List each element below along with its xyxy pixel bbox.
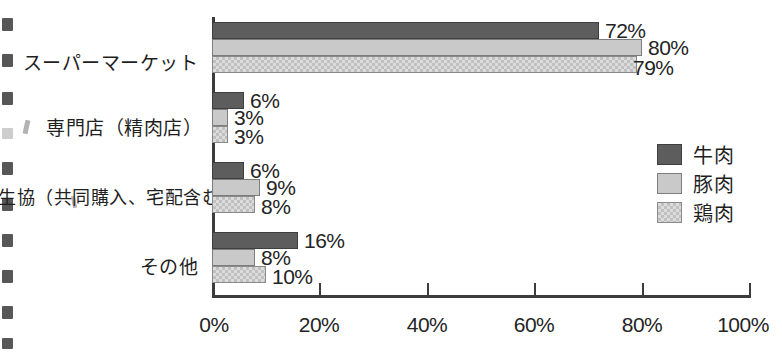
pork-swatch-icon xyxy=(657,173,682,194)
bar-coop-pork xyxy=(212,179,260,196)
x-axis-tick xyxy=(212,283,214,296)
x-axis-tick-label-40: 40% xyxy=(407,313,448,337)
bar-value-specialty-pork: 3% xyxy=(234,109,263,126)
x-axis-tick xyxy=(319,283,321,296)
bar-supermarket-chicken xyxy=(212,56,637,73)
legend-label-pork: 豚肉 xyxy=(693,169,734,198)
chart-legend: 牛肉 豚肉 鶏肉 xyxy=(657,140,734,227)
bar-supermarket-beef xyxy=(212,22,599,39)
x-axis-tick xyxy=(534,283,536,296)
bar-value-other-chicken: 10% xyxy=(272,268,313,285)
bar-other-chicken xyxy=(212,266,266,283)
bar-coop-chicken xyxy=(212,196,255,213)
bar-value-supermarket-chicken: 79% xyxy=(633,59,674,76)
x-axis-tick xyxy=(749,283,751,296)
x-axis-tick xyxy=(427,283,429,296)
bar-specialty-pork xyxy=(212,109,228,126)
category-label-specialty-store: 専門店（精肉店） xyxy=(0,113,206,140)
category-label-other: その他 xyxy=(0,252,206,279)
chart-page: スーパーマーケット 専門店（精肉店） 生協（共同購入、宅配含む） その他 0% … xyxy=(0,0,782,355)
legend-item-pork: 豚肉 xyxy=(657,169,734,198)
legend-item-chicken: 鶏肉 xyxy=(657,198,734,227)
bar-value-coop-pork: 9% xyxy=(266,179,295,196)
legend-item-beef: 牛肉 xyxy=(657,140,734,169)
category-label-supermarket: スーパーマーケット xyxy=(0,48,206,75)
legend-label-beef: 牛肉 xyxy=(693,140,734,169)
category-axis-labels: スーパーマーケット 専門店（精肉店） 生協（共同購入、宅配含む） その他 xyxy=(0,0,206,355)
x-axis-tick-label-20: 20% xyxy=(299,313,340,337)
x-axis-tick-label-80: 80% xyxy=(622,313,663,337)
bar-coop-beef xyxy=(212,162,244,179)
x-axis-line xyxy=(212,295,751,298)
bar-value-other-beef: 16% xyxy=(304,232,345,249)
chicken-swatch-icon xyxy=(657,202,682,223)
x-axis-tick-label-0: 0% xyxy=(199,313,228,337)
legend-label-chicken: 鶏肉 xyxy=(693,198,734,227)
category-label-co-op: 生協（共同購入、宅配含む） xyxy=(0,183,206,209)
x-axis-tick-label-100: 100% xyxy=(717,313,769,337)
bar-value-coop-chicken: 8% xyxy=(261,198,290,215)
bar-value-supermarket-beef: 72% xyxy=(605,22,646,39)
x-axis-tick-label-60: 60% xyxy=(514,313,555,337)
bar-value-other-pork: 8% xyxy=(261,249,290,266)
bar-value-supermarket-pork: 80% xyxy=(648,39,689,56)
beef-swatch-icon xyxy=(657,144,682,165)
bar-supermarket-pork xyxy=(212,39,642,56)
bar-value-specialty-chicken: 3% xyxy=(234,128,263,145)
bar-specialty-chicken xyxy=(212,126,228,143)
x-axis-tick xyxy=(642,283,644,296)
bar-other-pork xyxy=(212,249,255,266)
